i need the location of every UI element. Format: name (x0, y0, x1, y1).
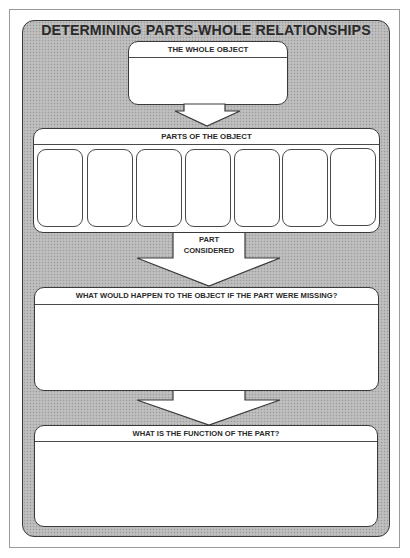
part-slot-6[interactable] (282, 149, 328, 227)
part-considered-label: PART CONSIDERED (173, 234, 245, 256)
part-slot-2[interactable] (87, 149, 133, 227)
function-box[interactable]: WHAT IS THE FUNCTION OF THE PART? (34, 425, 378, 527)
function-label: WHAT IS THE FUNCTION OF THE PART? (35, 426, 377, 442)
part-slot-7[interactable] (330, 148, 376, 226)
part-considered-line2: CONSIDERED (173, 245, 245, 256)
parts-label: PARTS OF THE OBJECT (34, 129, 379, 145)
part-slot-5[interactable] (234, 149, 280, 227)
missing-part-box[interactable]: WHAT WOULD HAPPEN TO THE OBJECT IF THE P… (34, 287, 379, 391)
part-considered-line1: PART (173, 234, 245, 245)
part-slot-3[interactable] (136, 149, 182, 227)
part-slot-4[interactable] (185, 149, 231, 227)
missing-part-label: WHAT WOULD HAPPEN TO THE OBJECT IF THE P… (35, 288, 378, 305)
part-slot-1[interactable] (37, 149, 83, 227)
